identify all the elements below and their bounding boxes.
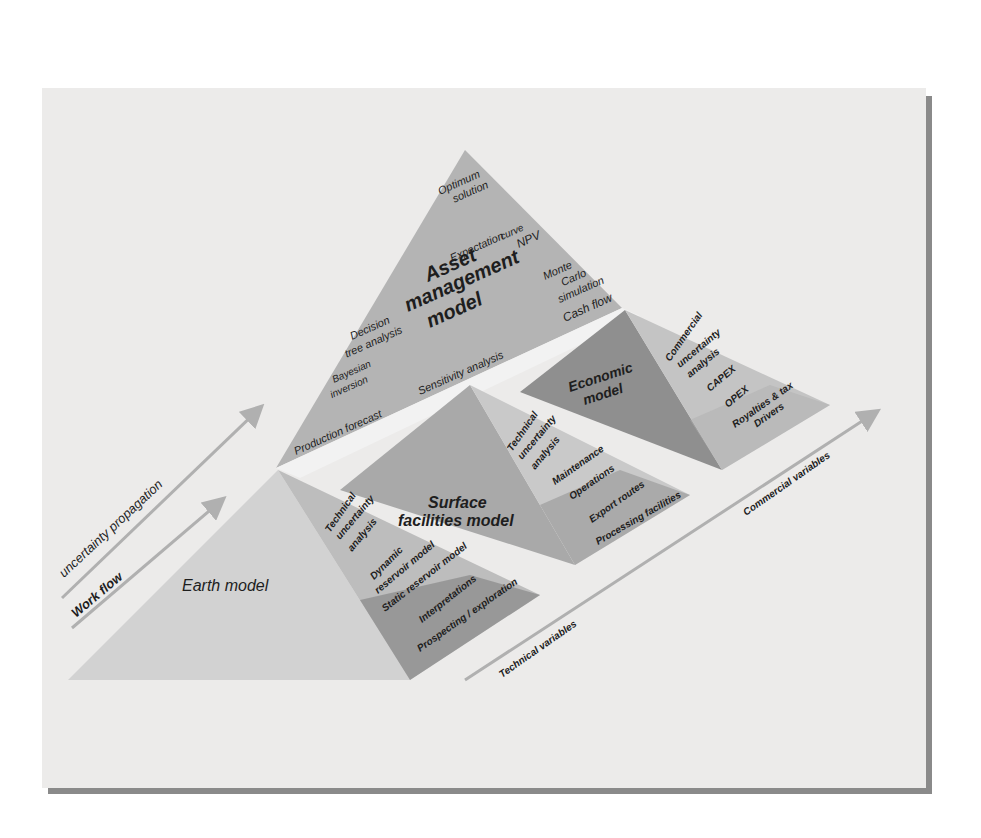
uncertainty-label: uncertainty propagation [56, 477, 166, 581]
surface-title-2: facilities model [398, 512, 514, 529]
earth-title: Earth model [182, 577, 269, 594]
surface-title-1: Surface [428, 494, 487, 511]
technical-variables-label: Technical variables [497, 618, 579, 680]
pyramid-diagram: Optimum solution Expectation curve NPV A… [0, 0, 981, 838]
workflow-label: Work flow [68, 568, 126, 620]
commercial-variables-label: Commercial variables [741, 449, 832, 518]
